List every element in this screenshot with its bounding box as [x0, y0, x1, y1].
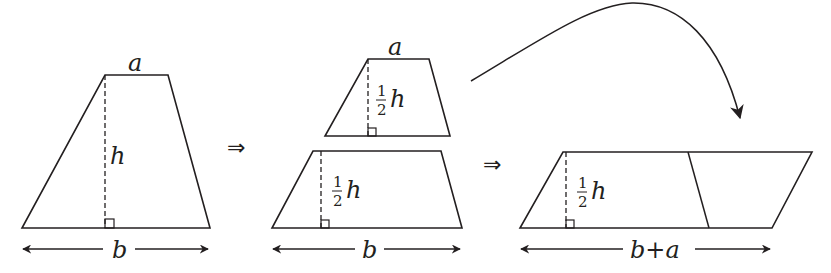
figure-1-trapezoid: a h b [22, 49, 210, 264]
label-a: a [388, 33, 402, 61]
parallelogram-shape [520, 152, 812, 228]
right-angle-marker [321, 220, 329, 228]
figure-2-split: a 1 2 h 1 2 h b [272, 33, 462, 264]
bottom-half-trapezoid: 1 2 h [272, 151, 462, 228]
fraction-denominator: 2 [377, 101, 387, 119]
label-b-plus-a: b+a [630, 236, 680, 264]
figure-3-parallelogram: 1 2 h b+a [520, 152, 812, 264]
fraction-denominator: 2 [333, 192, 343, 210]
fraction-numerator: 1 [333, 173, 343, 191]
trapezoid-shape [325, 59, 450, 136]
trapezoid-area-diagram: a h b ⇒ a 1 2 h 1 2 h b [0, 0, 831, 273]
label-a: a [128, 49, 142, 77]
top-half-trapezoid: a 1 2 h [325, 33, 450, 136]
label-h: h [346, 176, 361, 204]
fraction-numerator: 1 [578, 174, 588, 192]
divider-line [688, 152, 709, 228]
trapezoid-shape [272, 151, 462, 228]
curved-arrow-icon [471, 3, 740, 118]
fraction-numerator: 1 [377, 82, 387, 100]
implies-arrow-1: ⇒ [227, 135, 245, 160]
implies-arrow-2: ⇒ [483, 152, 501, 177]
label-b: b [362, 236, 377, 264]
label-h: h [591, 177, 606, 205]
label-h: h [390, 85, 405, 113]
right-angle-marker [566, 220, 574, 228]
right-angle-marker [105, 219, 114, 228]
fraction-denominator: 2 [578, 193, 588, 211]
label-b: b [112, 236, 127, 264]
right-angle-marker [368, 128, 376, 136]
label-h: h [110, 142, 125, 170]
